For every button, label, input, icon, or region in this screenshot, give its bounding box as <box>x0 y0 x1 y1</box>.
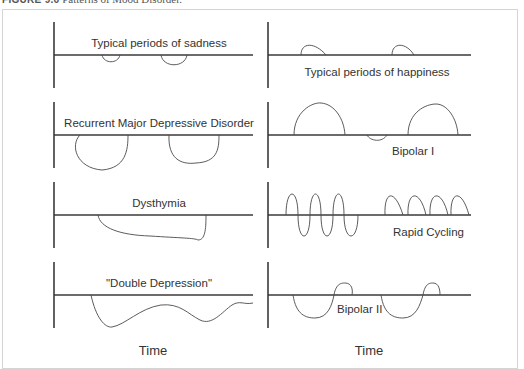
panel-bipolar-2: Bipolar II <box>268 262 471 328</box>
manic-cycle-3 <box>430 196 448 215</box>
x-axis-label-right: Time <box>355 343 383 358</box>
sadness-dip-1 <box>102 55 120 62</box>
manic-cycle-2 <box>408 196 426 215</box>
chronic-depression <box>98 215 206 240</box>
panel-dysthymia: Dysthymia <box>54 182 253 248</box>
panel-typical-happiness: Typical periods of happiness <box>268 22 471 88</box>
manic-episode-1 <box>294 103 345 135</box>
panel-recurrent-mdd: Recurrent Major Depressive Disorder <box>54 102 254 170</box>
panel-double-depression: "Double Depression" <box>54 262 253 328</box>
panel-label: Rapid Cycling <box>393 226 464 238</box>
depressive-episode-2 <box>169 135 219 163</box>
panel-typical-sadness: Typical periods of sadness <box>54 22 253 88</box>
manic-episode-2 <box>408 104 458 135</box>
panel-rapid-cycling: Rapid Cycling <box>268 182 471 248</box>
happiness-rise-1 <box>301 45 326 55</box>
manic-cycle-4 <box>451 196 469 215</box>
depressive-episode-1 <box>75 135 128 170</box>
x-axis-label-left: Time <box>139 343 167 358</box>
depression-hypomania-cycle-2 <box>381 283 440 318</box>
panel-label: Typical periods of happiness <box>304 66 449 78</box>
sadness-dip-2 <box>161 55 187 65</box>
panel-label: Bipolar II <box>337 303 382 315</box>
panel-label: Bipolar I <box>392 145 434 157</box>
panel-label: "Double Depression" <box>106 277 212 289</box>
panel-label: Recurrent Major Depressive Disorder <box>64 117 254 129</box>
panel-label: Typical periods of sadness <box>91 37 227 49</box>
double-depression-curve <box>91 295 253 327</box>
manic-cycle-1 <box>385 196 403 215</box>
panel-bipolar-1: Bipolar I <box>268 102 471 168</box>
happiness-rise-2 <box>392 45 414 55</box>
panel-label: Dysthymia <box>132 197 186 209</box>
